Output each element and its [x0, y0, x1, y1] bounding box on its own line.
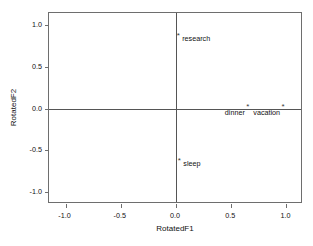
y-tick	[45, 25, 49, 26]
x-tick	[286, 204, 287, 208]
data-point-marker-icon: *	[175, 32, 181, 39]
plot-frame: *research*dinner*vacation*sleep	[48, 12, 302, 203]
data-point-label: research	[182, 35, 210, 43]
y-tick	[45, 67, 49, 68]
data-point-marker-icon: *	[245, 103, 251, 110]
x-tick-label: -0.5	[114, 211, 126, 220]
x-tick	[121, 204, 122, 208]
x-tick-label: 0.5	[225, 211, 235, 220]
y-tick-label: 1.0	[32, 20, 42, 29]
reference-line-vertical	[176, 13, 177, 202]
y-tick	[45, 109, 49, 110]
y-tick-label: 0.5	[32, 61, 42, 70]
x-axis-title: RotatedF1	[48, 224, 302, 233]
x-tick-label: 1.0	[280, 211, 290, 220]
x-tick-label: 0.0	[170, 211, 180, 220]
y-tick-label: -0.5	[30, 145, 42, 154]
data-point-marker-icon: *	[280, 103, 286, 110]
y-axis-tick-labels: 1.00.50.0-0.5-1.0	[0, 12, 48, 203]
x-tick	[231, 204, 232, 208]
x-tick-label: -1.0	[58, 211, 70, 220]
y-tick-label: 0.0	[32, 103, 42, 112]
plot-area: *research*dinner*vacation*sleep	[49, 13, 301, 202]
scatter-plot-figure: RotatedF2 1.00.50.0-0.5-1.0 *research*di…	[0, 0, 313, 246]
x-tick	[176, 204, 177, 208]
x-tick	[66, 204, 67, 208]
y-tick	[45, 192, 49, 193]
y-tick-label: -1.0	[30, 186, 42, 195]
data-point-label: dinner	[225, 109, 245, 117]
y-tick	[45, 150, 49, 151]
data-point-marker-icon: *	[176, 157, 182, 164]
data-point-label: sleep	[183, 160, 200, 168]
data-point-label: vacation	[253, 109, 280, 117]
